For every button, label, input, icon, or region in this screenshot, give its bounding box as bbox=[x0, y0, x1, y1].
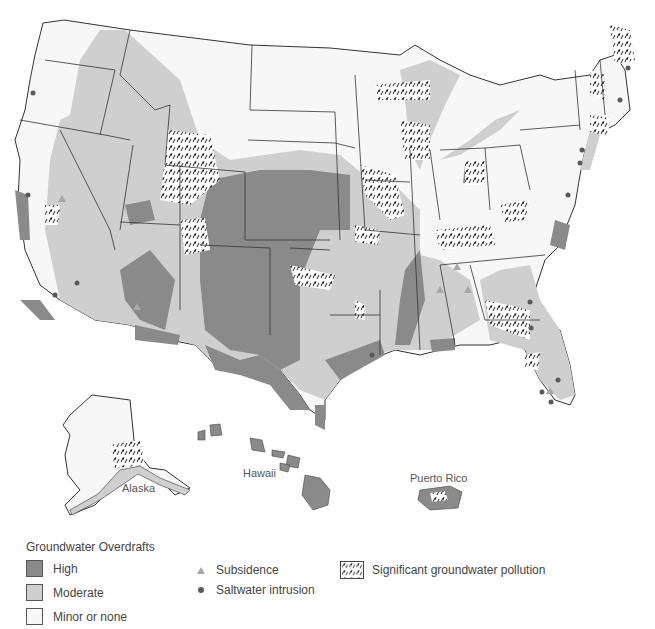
groundwater-map: Alaska Hawaii Puerto Rico bbox=[0, 0, 655, 540]
legend-pollution: Significant groundwater pollution bbox=[340, 561, 545, 579]
legend-saltwater-label: Saltwater intrusion bbox=[216, 583, 315, 597]
dot-icon bbox=[194, 587, 208, 593]
legend-high: High bbox=[26, 560, 78, 577]
label-puerto-rico: Puerto Rico bbox=[410, 472, 467, 484]
hawaii: Hawaii bbox=[198, 424, 330, 510]
legend-title: Groundwater Overdrafts bbox=[26, 540, 155, 554]
legend-pollution-label: Significant groundwater pollution bbox=[372, 563, 545, 577]
puerto-rico: Puerto Rico bbox=[410, 472, 467, 510]
moderate-swatch-icon bbox=[26, 584, 43, 601]
label-alaska: Alaska bbox=[122, 482, 156, 494]
hatch-pattern-icon bbox=[340, 561, 364, 579]
high-swatch-icon bbox=[26, 560, 43, 577]
legend-minor-label: Minor or none bbox=[53, 610, 127, 624]
legend-moderate: Moderate bbox=[26, 584, 104, 601]
legend-saltwater: Saltwater intrusion bbox=[194, 583, 315, 597]
alaska: Alaska bbox=[63, 395, 190, 515]
legend-subsidence-label: Subsidence bbox=[216, 563, 279, 577]
legend-high-label: High bbox=[53, 562, 78, 576]
legend-subsidence: Subsidence bbox=[194, 563, 279, 577]
legend-moderate-label: Moderate bbox=[53, 586, 104, 600]
triangle-icon bbox=[194, 567, 208, 574]
legend-minor: Minor or none bbox=[26, 608, 127, 625]
label-hawaii: Hawaii bbox=[243, 467, 276, 479]
minor-swatch-icon bbox=[26, 608, 43, 625]
